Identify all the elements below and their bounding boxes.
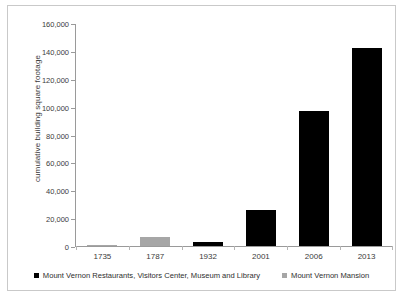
bar-2013[interactable]	[352, 48, 382, 246]
bar-group: 1735	[76, 24, 129, 246]
x-tick-label: 2001	[252, 252, 270, 261]
bar-2006[interactable]	[299, 111, 329, 246]
y-tick-label: 20,000	[46, 215, 69, 224]
bar-1932[interactable]	[193, 242, 223, 246]
bar-group: 1932	[182, 24, 235, 246]
legend-item-series-a[interactable]: Mount Vernon Restaurants, Visitors Cente…	[34, 271, 260, 280]
x-tick-label: 1735	[94, 252, 112, 261]
y-tick-mark	[71, 52, 75, 53]
x-tick-mark	[129, 246, 130, 250]
x-tick-mark	[182, 246, 183, 250]
legend-label-series-a: Mount Vernon Restaurants, Visitors Cente…	[43, 271, 260, 280]
legend-swatch-icon	[282, 273, 287, 278]
y-tick-label: 0	[65, 243, 69, 252]
y-tick-mark	[71, 108, 75, 109]
bar-2001[interactable]	[246, 210, 276, 246]
chart-legend: Mount Vernon Restaurants, Visitors Cente…	[8, 271, 395, 280]
y-tick-label: 40,000	[46, 187, 69, 196]
x-tick-mark	[340, 246, 341, 250]
legend-swatch-icon	[34, 273, 39, 278]
y-tick-mark	[71, 136, 75, 137]
x-tick-mark	[76, 246, 77, 250]
bar-group: 2001	[234, 24, 287, 246]
chart-frame: cumulative building square footage 020,0…	[7, 5, 396, 291]
bar-group: 2006	[287, 24, 340, 246]
bars-layer: 173517871932200120062013	[76, 24, 393, 246]
legend-item-series-b[interactable]: Mount Vernon Mansion	[282, 271, 369, 280]
y-tick-label: 80,000	[46, 131, 69, 140]
y-tick-mark	[71, 80, 75, 81]
x-tick-mark	[392, 246, 393, 250]
y-tick-label: 120,000	[42, 75, 69, 84]
bar-1787[interactable]	[140, 237, 170, 246]
y-tick-mark	[71, 163, 75, 164]
x-tick-label: 1932	[199, 252, 217, 261]
y-tick-label: 140,000	[42, 47, 69, 56]
y-axis-title: cumulative building square footage	[33, 34, 42, 204]
y-tick-mark	[71, 247, 75, 248]
y-tick-label: 60,000	[46, 159, 69, 168]
bar-1735[interactable]	[87, 245, 117, 246]
y-tick-label: 160,000	[42, 20, 69, 29]
x-tick-mark	[234, 246, 235, 250]
bar-group: 2013	[340, 24, 393, 246]
x-tick-label: 2013	[358, 252, 376, 261]
y-tick-mark	[71, 191, 75, 192]
bar-group: 1787	[129, 24, 182, 246]
x-tick-mark	[287, 246, 288, 250]
y-tick-mark	[71, 219, 75, 220]
plot-area: 020,00040,00060,00080,000100,000120,0001…	[75, 24, 393, 247]
y-tick-mark	[71, 24, 75, 25]
y-tick-label: 100,000	[42, 103, 69, 112]
x-tick-label: 1787	[146, 252, 164, 261]
x-tick-label: 2006	[305, 252, 323, 261]
legend-label-series-b: Mount Vernon Mansion	[291, 271, 369, 280]
